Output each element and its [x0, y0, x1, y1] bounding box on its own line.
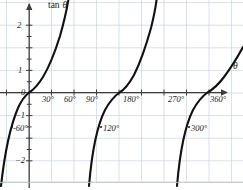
annotation-neg60: -60°: [13, 124, 28, 133]
plot-canvas: [0, 0, 243, 190]
x-tick-360: 360°: [210, 95, 226, 104]
x-tick-90: 90°: [86, 95, 98, 104]
y-tick-0: 0: [21, 88, 25, 97]
y-tick-neg1: −1: [15, 111, 25, 120]
annotation-300: 300°: [191, 124, 207, 133]
y-tick-neg2: −2: [15, 156, 25, 165]
y-tick-1: 1: [18, 66, 22, 75]
y-tick-2: 2: [17, 21, 21, 30]
x-tick-180: 180°: [123, 95, 139, 104]
marker-120: [100, 126, 102, 128]
marker-300: [188, 126, 190, 128]
x-tick-270: 270°: [168, 95, 184, 104]
annotation-120: 120°: [103, 124, 119, 133]
x-axis-label-theta: θ: [233, 62, 238, 72]
chart-title: tanθ: [48, 1, 67, 11]
x-tick-60: 60°: [64, 95, 76, 104]
x-tick-30: 30°: [42, 95, 54, 104]
chart-title-text: tan: [48, 0, 60, 10]
axes: [0, 4, 221, 188]
tangent-function-graph-figure: tanθ θ 2 1 0 −1 −2 30° 60° 90° 180° 270°…: [0, 0, 243, 190]
y-axis-arrowhead: [26, 3, 32, 10]
theta-symbol-title: θ: [60, 0, 68, 10]
annotation-markers: [11, 126, 190, 128]
